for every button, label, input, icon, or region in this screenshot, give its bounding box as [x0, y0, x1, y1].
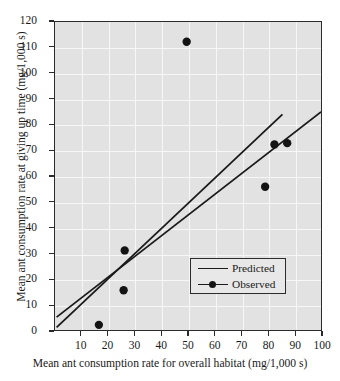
x-tick-mark — [295, 331, 296, 336]
x-axis-title: Mean ant consumption rate for overall ha… — [0, 357, 340, 370]
legend-label-observed: Observed — [232, 279, 275, 290]
data-point — [183, 38, 191, 46]
data-point — [121, 246, 129, 254]
legend-label-predicted: Predicted — [232, 263, 275, 274]
x-tick-mark — [187, 331, 188, 336]
scatter-plot-figure: 0102030405060708090100110120 10203040506… — [0, 0, 340, 381]
x-tick-mark — [268, 331, 269, 336]
chart-legend: Predicted Observed — [190, 258, 286, 294]
data-point — [270, 140, 278, 148]
x-tick-mark — [321, 331, 322, 336]
x-tick-mark — [214, 331, 215, 336]
x-tick-mark — [161, 331, 162, 336]
data-point — [119, 286, 127, 294]
y-tick-label: 0 — [0, 325, 45, 337]
data-point — [283, 139, 291, 147]
legend-line-dot-swatch-observed — [196, 278, 230, 292]
y-axis-title: Mean ant consumption rate at giving up t… — [15, 7, 28, 327]
legend-line-swatch-predicted — [196, 262, 230, 276]
regression-line-steeper-fit — [57, 114, 283, 327]
x-tick-label: 100 — [302, 340, 340, 352]
x-tick-mark — [80, 331, 81, 336]
legend-item-predicted: Predicted — [191, 260, 285, 277]
x-tick-mark — [241, 331, 242, 336]
data-point — [261, 183, 269, 191]
legend-item-observed: Observed — [191, 276, 285, 293]
x-tick-mark — [134, 331, 135, 336]
data-point — [95, 321, 103, 329]
x-tick-mark — [107, 331, 108, 336]
